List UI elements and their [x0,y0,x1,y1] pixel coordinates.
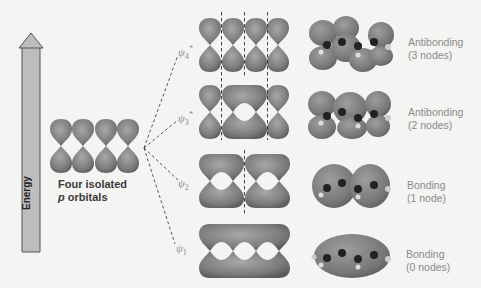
model-psi2 [312,164,391,208]
isolated-orbitals-label: Four isolated p orbitals [58,178,127,204]
model-psi4 [309,16,394,72]
mo-psi1-lobes [199,224,290,278]
psi1-label: ψ1 [176,242,187,257]
correlation-lines [144,55,178,244]
model-psi3 [308,91,391,139]
mo-psi4-lobes [199,18,289,72]
psi3-label: ψ3* [178,110,193,127]
psi3-description: Antibonding(2 nodes) [408,106,463,131]
psi4-description: Antibonding(3 nodes) [408,36,463,61]
psi4-label: ψ4* [178,44,193,61]
mo-psi3-lobes [199,85,289,139]
isolated-p-orbitals [50,119,139,173]
psi2-description: Bonding(1 node) [407,179,446,204]
energy-axis-label: Energy [21,176,32,210]
psi1-description: Bonding(0 nodes) [406,248,450,273]
psi2-label: ψ2 [178,177,189,192]
energy-arrow [19,33,43,252]
model-psi1 [312,234,392,278]
node-lines [222,12,268,214]
